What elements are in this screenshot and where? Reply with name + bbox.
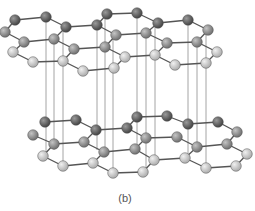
carbon-atom — [231, 161, 242, 172]
carbon-atom — [49, 139, 60, 150]
carbon-atom — [100, 42, 111, 53]
carbon-atom — [99, 147, 110, 158]
carbon-atom — [102, 9, 113, 20]
graphite-diagram — [0, 0, 255, 211]
bonds — [5, 13, 247, 173]
carbon-atom — [192, 142, 203, 153]
carbon-atom — [183, 15, 194, 26]
carbon-atom — [109, 63, 120, 74]
carbon-atom — [170, 60, 181, 71]
carbon-atom — [71, 115, 82, 126]
carbon-atom — [28, 130, 39, 141]
carbon-atom — [92, 20, 103, 31]
carbon-atom — [141, 28, 152, 39]
carbon-atom — [141, 133, 152, 144]
carbon-atom — [38, 151, 49, 162]
carbon-atom — [203, 25, 214, 36]
carbon-atom — [88, 158, 99, 169]
carbon-atom — [138, 167, 149, 178]
carbon-atom — [132, 112, 143, 123]
interlayer-lines — [46, 13, 206, 173]
carbon-atom — [201, 58, 212, 69]
carbon-atom — [172, 132, 183, 143]
carbon-atom — [149, 155, 160, 166]
carbon-atom — [28, 57, 39, 68]
carbon-atom — [69, 44, 80, 55]
carbon-atom — [111, 30, 122, 41]
carbon-atom — [150, 50, 161, 61]
carbon-atom — [192, 37, 203, 48]
carbon-atom — [40, 117, 51, 128]
carbon-atom — [162, 111, 173, 122]
carbon-atom — [91, 125, 102, 136]
carbon-atom — [183, 119, 194, 130]
carbon-atom — [130, 144, 141, 155]
carbon-atom — [120, 52, 131, 63]
carbon-atom — [8, 47, 19, 58]
carbon-atom — [10, 15, 21, 26]
carbon-atom — [78, 66, 89, 77]
carbon-atom — [58, 56, 69, 67]
carbon-atom — [242, 149, 253, 160]
carbon-atom — [61, 22, 72, 33]
carbon-atom — [162, 38, 173, 49]
carbon-atom — [201, 163, 212, 174]
carbon-atom — [232, 127, 243, 138]
carbon-atom — [79, 137, 90, 148]
carbon-atom — [132, 8, 143, 19]
carbon-atom — [122, 123, 133, 134]
carbon-atom — [180, 153, 191, 164]
carbon-atom — [222, 139, 233, 150]
atoms — [0, 8, 252, 179]
carbon-atom — [19, 37, 30, 48]
carbon-atom — [41, 12, 52, 23]
carbon-atom — [0, 27, 10, 38]
carbon-atom — [58, 161, 69, 172]
carbon-atom — [49, 34, 60, 45]
carbon-atom — [108, 168, 119, 179]
carbon-atom — [212, 47, 223, 58]
carbon-atom — [153, 18, 164, 29]
carbon-atom — [213, 117, 224, 128]
figure-caption: (b) — [0, 192, 250, 204]
